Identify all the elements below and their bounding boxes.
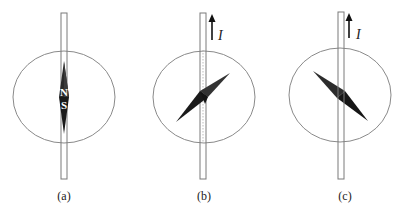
caption-a: (a) — [57, 189, 70, 203]
panel-a: N S (a) — [13, 13, 115, 203]
compass-needle-c — [313, 71, 368, 121]
panel-b: I (b) — [153, 13, 255, 203]
south-pole-label: S — [61, 99, 67, 111]
current-arrow-c — [346, 13, 353, 38]
north-pole-label: N — [60, 86, 68, 98]
current-label-b: I — [217, 28, 224, 43]
panel-c: I (c) — [289, 12, 391, 203]
current-arrow-b — [209, 14, 216, 40]
current-label-c: I — [355, 27, 362, 42]
caption-c: (c) — [338, 189, 351, 203]
oersted-experiment-figure: N S (a) I (b) I (c) — [0, 0, 400, 215]
caption-b: (b) — [197, 189, 211, 203]
